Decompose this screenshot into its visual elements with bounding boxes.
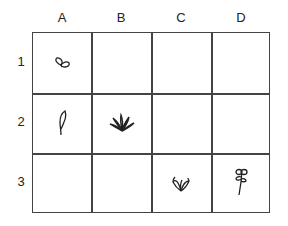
row-label-1: 1: [14, 54, 28, 69]
cell-a2: [33, 93, 92, 153]
column-label-d: D: [211, 10, 271, 25]
flower-icon: [232, 168, 250, 198]
column-label-c: C: [151, 10, 211, 25]
cell-b2: [92, 93, 151, 153]
cell-a1: [33, 33, 92, 93]
grass-tuft-icon: [108, 112, 136, 134]
seedling-icon: [170, 173, 192, 193]
column-label-a: A: [32, 10, 92, 25]
row-label-2: 2: [14, 114, 28, 129]
cell-c3: [151, 153, 210, 213]
row-label-3: 3: [14, 174, 28, 189]
column-label-b: B: [91, 10, 151, 25]
sprout-icon: [52, 55, 74, 71]
leaf-icon: [56, 109, 70, 137]
cell-d3: [211, 153, 270, 213]
grid: [32, 32, 270, 213]
